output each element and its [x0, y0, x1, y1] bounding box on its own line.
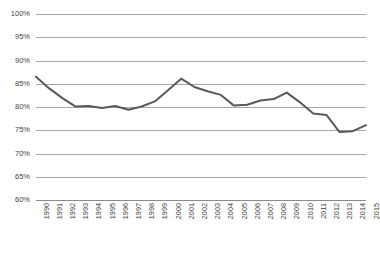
series-line-1	[36, 77, 366, 132]
x-axis-tick-label: 2004	[226, 203, 235, 219]
x-axis-labels: 1990199119921993199419951996199719981999…	[36, 203, 366, 253]
y-axis-tick-label: 65%	[0, 173, 30, 181]
x-axis-tick-label: 2011	[319, 203, 328, 219]
series-line-group	[36, 14, 366, 200]
x-axis-tick-label: 1998	[147, 203, 156, 219]
y-axis-tick-label: 85%	[0, 80, 30, 88]
y-axis-tick-label: 70%	[0, 150, 30, 158]
x-axis-tick-label: 1994	[94, 203, 103, 219]
x-axis-tick-label: 2005	[240, 203, 249, 219]
x-axis-tick-label: 1993	[81, 203, 90, 219]
x-axis-tick-label: 1999	[160, 203, 169, 219]
x-axis-tick-label: 2001	[187, 203, 196, 219]
x-axis-tick-label: 1991	[55, 203, 64, 219]
x-axis-tick-label: 2006	[253, 203, 262, 219]
x-axis-tick-label: 2007	[266, 203, 275, 219]
x-axis-tick-label: 2002	[200, 203, 209, 219]
x-axis-line	[36, 200, 366, 201]
y-axis-tick-label: 90%	[0, 57, 30, 65]
x-axis-tick-label: 2013	[345, 203, 354, 219]
y-axis-tick-label: 60%	[0, 196, 30, 204]
y-axis-tick-label: 95%	[0, 33, 30, 41]
x-axis-tick-label: 2014	[358, 203, 367, 219]
y-axis-tick-label: 100%	[0, 10, 30, 18]
x-axis-tick-label: 1997	[134, 203, 143, 219]
x-axis-tick-label: 2009	[292, 203, 301, 219]
x-axis-tick-label: 1996	[121, 203, 130, 219]
x-axis-tick-label: 1995	[108, 203, 117, 219]
x-axis-tick-label: 1992	[68, 203, 77, 219]
x-axis-tick-label: 2015	[372, 203, 380, 219]
x-axis-tick-label: 2012	[332, 203, 341, 219]
line-chart: 100%95%90%85%80%75%70%65%60% 19901991199…	[0, 0, 380, 253]
x-axis-tick-label: 2008	[279, 203, 288, 219]
x-axis-tick-label: 1990	[42, 203, 51, 219]
plot-area	[36, 14, 366, 200]
x-axis-tick-label: 2000	[174, 203, 183, 219]
y-axis-tick-label: 80%	[0, 103, 30, 111]
x-axis-tick-label: 2003	[213, 203, 222, 219]
y-axis-tick-label: 75%	[0, 126, 30, 134]
chart-title-cropped	[0, 0, 380, 7]
x-axis-tick-label: 2010	[306, 203, 315, 219]
